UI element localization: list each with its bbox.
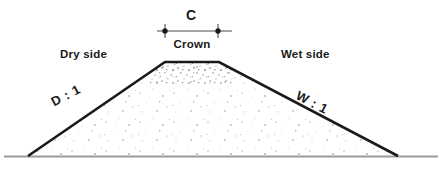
- dry-side-label: Dry side: [60, 49, 107, 61]
- embankment-body: [28, 62, 398, 156]
- embankment-diagram: C Crown Dry side Wet side D : 1 W : 1: [0, 0, 442, 169]
- dimension-endpoint-left-dot: [162, 28, 167, 33]
- wet-side-label: Wet side: [281, 49, 330, 61]
- crown-dimension: [157, 24, 232, 38]
- crown-width-symbol: C: [178, 8, 204, 22]
- crown-label: Crown: [165, 39, 219, 51]
- dimension-endpoint-right-dot: [215, 28, 220, 33]
- diagram-canvas: [0, 0, 442, 169]
